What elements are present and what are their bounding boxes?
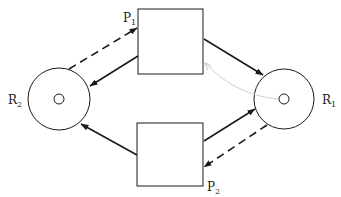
transition-p1-box (138, 9, 203, 74)
petri-net-diagram: R2 R1 P1 P2 (0, 0, 341, 197)
token-r1 (279, 94, 289, 104)
caption-cutoff: ​ (0, 189, 341, 197)
arc-r1-to-p2-dashed (204, 125, 267, 167)
transition-p2-box (137, 123, 203, 186)
place-r2: R2 (8, 68, 90, 130)
place-r2-circle (28, 68, 90, 130)
label-p1: P1 (123, 11, 136, 27)
transition-p2: P2 (137, 123, 220, 196)
label-r2: R2 (8, 93, 22, 109)
arc-p2-to-r1 (204, 109, 255, 141)
arc-p1-to-r1 (204, 39, 263, 75)
arc-r1-to-p1-faint (205, 63, 278, 99)
place-r1: R1 (254, 69, 336, 129)
label-r1: R1 (322, 93, 336, 109)
caption-fragment: ​ (0, 189, 341, 197)
token-r2 (54, 94, 64, 104)
arc-p2-to-r2 (81, 124, 137, 155)
place-r1-circle (254, 69, 314, 129)
transition-p1: P1 (123, 9, 203, 74)
arc-p1-to-r2 (90, 56, 138, 86)
